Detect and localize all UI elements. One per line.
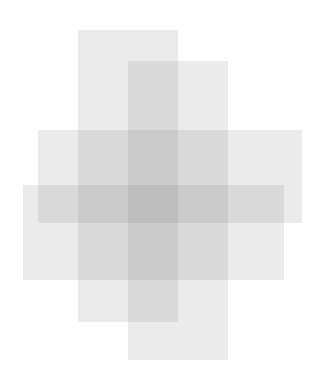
- abstract-composition-canvas: [0, 0, 315, 383]
- wide-rect-lower: [23, 185, 284, 280]
